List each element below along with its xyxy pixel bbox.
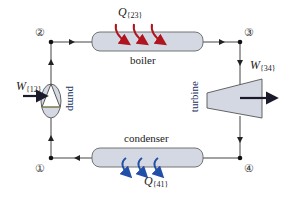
w34-symbol: W xyxy=(250,58,260,72)
q41-label: Q{41} xyxy=(144,174,168,189)
w12-label: W{12} xyxy=(16,79,42,94)
condenser-vessel xyxy=(92,148,203,167)
w34-subscript: {34} xyxy=(260,64,276,73)
q41-symbol: Q xyxy=(144,174,153,188)
node-3-label: ③ xyxy=(244,26,254,39)
boiler-label: boiler xyxy=(130,54,156,66)
pump-label: pump xyxy=(66,86,78,111)
node-4-label: ④ xyxy=(244,162,254,175)
pump-body xyxy=(41,84,61,118)
q23-symbol: Q xyxy=(118,5,127,19)
boiler-vessel xyxy=(92,32,203,51)
node-2-label: ② xyxy=(35,26,45,39)
w12-subscript: {12} xyxy=(26,85,42,94)
condenser-label: condenser xyxy=(124,132,169,144)
turbine-label: turbine xyxy=(188,81,200,112)
q23-subscript: {23} xyxy=(127,11,143,20)
w34-label: W{34} xyxy=(250,58,276,73)
node-1-label: ① xyxy=(35,162,45,175)
q23-label: Q{23} xyxy=(118,5,142,20)
w12-symbol: W xyxy=(16,79,26,93)
q41-subscript: {41} xyxy=(153,180,169,189)
